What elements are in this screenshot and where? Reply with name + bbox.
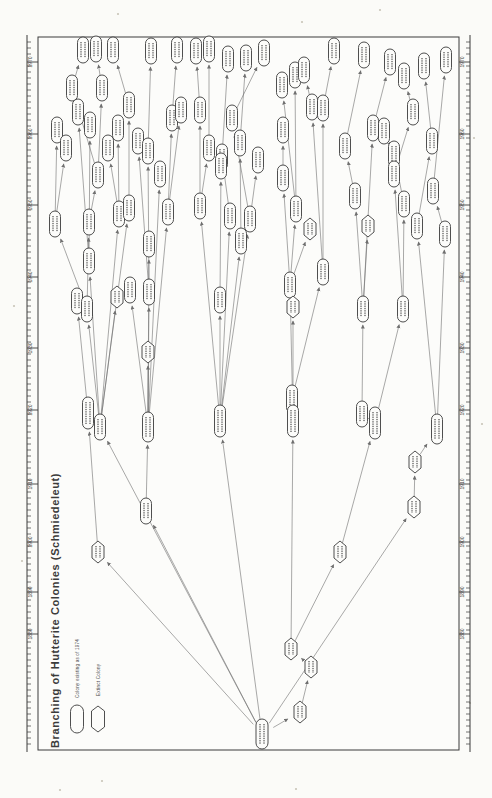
colony-node-existing [204,36,215,62]
legend-swatch-extinct [92,706,105,732]
colony-node-existing [441,47,452,73]
colony-node-extinct [305,656,317,678]
colony-node-existing [124,195,135,221]
scan-speck [59,789,61,791]
colony-node-existing [114,201,125,227]
colony-node-existing [427,128,438,154]
colony-node-existing [146,38,157,64]
colony-node-existing [318,95,329,121]
colony-node-existing [358,296,369,322]
colony-node-existing [143,412,154,442]
colony-node-existing [216,153,227,179]
colony-node-existing [78,37,89,63]
axis-year-label: 1880 [27,628,33,639]
colony-node-existing [113,115,124,141]
colony-node-existing [144,279,155,305]
colony-node-existing [389,161,400,187]
colony-node-existing [176,97,187,123]
colony-node-existing [124,92,135,118]
colony-node-existing [143,138,154,164]
colony-node-existing [67,75,78,101]
colony-node-existing [277,72,288,98]
legend-label-existing: Colony existing as of 1974 [75,639,80,698]
colony-node-existing [370,407,381,439]
scanned-page: 1970197019601960195019501940194019301930… [0,0,492,798]
scan-speck [379,9,381,11]
axis-year-label: 1950 [459,199,465,210]
colony-node-existing [259,40,270,66]
colony-node-existing [84,248,95,274]
colony-node-existing [359,42,370,68]
colony-node-existing [245,206,256,232]
colony-node-existing [191,38,202,64]
colony-node-extinct [287,296,299,318]
colony-node-existing [223,46,234,72]
colony-node-existing [195,193,206,219]
axis-year-label: 1890 [459,586,465,597]
colony-node-existing [440,221,451,247]
colony-node-existing [241,45,252,71]
scan-speck [117,13,119,15]
colony-node-existing [204,135,215,161]
colony-node-existing [419,53,430,79]
colony-node-existing [91,36,102,62]
axis-year-label: 1920 [459,404,465,415]
colony-node-existing [72,288,83,314]
colony-node-existing [103,135,114,161]
colony-node-existing [329,38,340,64]
colony-node-existing [278,165,289,191]
colony-node-extinct [408,496,420,518]
colony-node-existing [125,277,136,303]
colony-node-extinct [362,215,374,237]
colony-node-existing [95,414,106,440]
axis-year-label: 1900 [27,536,33,547]
colony-node-existing [108,37,119,63]
axis-year-label: 1920 [27,404,33,415]
colony-node-existing [235,130,246,156]
colony-node-existing [141,498,152,524]
colony-node-existing [379,118,390,144]
axis-year-label: 1930 [459,342,465,353]
colony-node-existing [340,133,351,159]
axis-year-label: 1910 [459,478,465,489]
axis-year-label: 1930 [27,342,33,353]
colony-node-existing [155,161,166,187]
colony-node-extinct [294,701,306,723]
scan-speck [481,423,483,425]
colony-node-existing [83,397,94,429]
axis-year-label: 1970 [27,56,33,67]
colony-node-existing [399,191,410,217]
colony-node-extinct [285,638,297,660]
colony-node-existing [215,405,226,437]
colony-node-existing [61,135,72,161]
axis-year-label: 1960 [27,128,33,139]
scan-speck [301,21,303,23]
colony-node-extinct [111,286,123,308]
axis-year-label: 1940 [27,271,33,282]
colony-node-existing [144,231,155,257]
diagram-canvas: 1970197019601960195019501940194019301930… [0,0,492,798]
colony-node-extinct [304,218,316,240]
colony-node-existing [318,259,329,285]
colony-node-existing [227,105,238,131]
colony-node-existing [299,57,310,83]
colony-node-existing [133,128,144,154]
colony-node-extinct [92,541,104,563]
colony-node-existing [412,213,423,239]
colony-node-existing [307,94,318,120]
axis-year-label: 1910 [27,478,33,489]
colony-node-existing [195,97,206,123]
colony-node-extinct [334,541,346,563]
colony-node-existing [428,178,439,204]
colony-node-existing [288,405,299,437]
colony-node-existing [163,199,174,225]
colony-node-existing [84,209,95,235]
axis-year-label: 1970 [459,56,465,67]
axis-year-label: 1940 [459,271,465,282]
colony-node-existing [82,296,93,322]
colony-node-existing [225,203,236,229]
colony-node-existing [97,75,108,101]
axis-year-label: 1960 [459,128,465,139]
colony-node-existing [399,63,410,89]
axis-year-label: 1890 [27,586,33,597]
